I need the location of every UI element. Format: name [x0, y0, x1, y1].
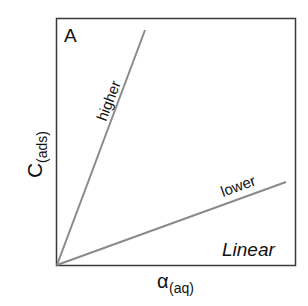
x-axis-label-sub: (aq): [169, 280, 194, 296]
lower-series-label: lower: [218, 172, 258, 200]
higher-series-line: [57, 30, 145, 265]
panel-label: A: [64, 25, 77, 46]
x-axis-label: α (aq): [157, 270, 194, 296]
y-axis-label-sub: (ads): [34, 131, 50, 163]
y-axis-label: C (ads): [23, 131, 50, 178]
x-axis-label-main: α: [157, 270, 169, 292]
isotherm-chart: A higher lower Linear α (aq) C (ads): [0, 0, 308, 306]
linear-annotation: Linear: [222, 239, 275, 260]
y-axis-label-main: C: [23, 163, 46, 178]
plot-frame: [57, 19, 296, 266]
